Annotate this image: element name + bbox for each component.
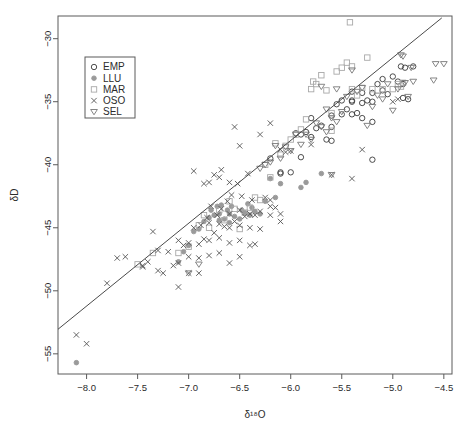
- marker-circle-open: [349, 112, 354, 117]
- x-tick-label: −5.5: [332, 382, 351, 393]
- y-tick-label: −50: [42, 283, 53, 299]
- series-sel: [185, 53, 447, 276]
- marker-triangle-down-open: [369, 104, 376, 109]
- marker-triangle-down-open: [298, 142, 305, 147]
- marker-triangle-down-open: [379, 97, 386, 102]
- legend-label-emp: EMP: [103, 61, 125, 72]
- marker-circle-filled: [181, 249, 186, 254]
- marker-circle-open: [370, 157, 375, 162]
- marker-circle-open: [288, 170, 293, 175]
- series-mar: [135, 20, 406, 267]
- marker-square-open: [339, 65, 344, 70]
- marker-circle-open: [354, 110, 359, 115]
- marker-circle-open: [308, 115, 313, 120]
- marker-circle-open: [411, 64, 416, 69]
- marker-square-open: [344, 60, 349, 65]
- marker-square-open: [257, 197, 262, 202]
- marker-circle-filled: [92, 76, 97, 81]
- legend-label-llu: LLU: [103, 73, 121, 84]
- marker-circle-open: [385, 91, 390, 96]
- y-tick-label: −40: [42, 157, 53, 173]
- x-tick-label: −7.0: [179, 382, 198, 393]
- x-tick-label: −6.0: [281, 382, 300, 393]
- marker-circle-open: [298, 154, 303, 159]
- marker-circle-filled: [74, 360, 79, 365]
- marker-square-open: [308, 86, 313, 91]
- marker-circle-filled: [237, 217, 242, 222]
- x-axis-title: δ¹⁸O: [245, 409, 266, 420]
- series-oso: [74, 96, 401, 346]
- marker-circle-filled: [227, 220, 232, 225]
- marker-square-open: [298, 127, 303, 132]
- marker-square-open: [334, 69, 339, 74]
- y-tick-label: −35: [42, 94, 53, 110]
- marker-square-open: [324, 88, 329, 93]
- marker-triangle-down-open: [410, 79, 417, 84]
- x-tick-label: −8.0: [77, 382, 96, 393]
- marker-circle-open: [390, 74, 395, 79]
- y-tick-label: −55: [42, 346, 53, 362]
- legend-label-sel: SEL: [103, 106, 122, 117]
- y-tick-label: −30: [42, 31, 53, 47]
- x-tick-label: −5.0: [383, 382, 402, 393]
- x-tick-label: −7.5: [128, 382, 147, 393]
- legend-label-oso: OSO: [103, 95, 125, 106]
- marker-square-open: [206, 225, 211, 230]
- marker-square-open: [347, 20, 352, 25]
- marker-triangle-down-open: [430, 78, 437, 83]
- marker-triangle-down-open: [364, 123, 371, 128]
- scatter-plot: −8.0−7.5−7.0−6.5−6.0−5.5−5.0−4.5−30−35−4…: [0, 0, 465, 430]
- marker-circle-filled: [304, 180, 309, 185]
- marker-circle-open: [324, 137, 329, 142]
- marker-circle-filled: [319, 171, 324, 176]
- marker-square-open: [303, 117, 308, 122]
- marker-circle-open: [365, 98, 370, 103]
- chart-container: −8.0−7.5−7.0−6.5−6.0−5.5−5.0−4.5−30−35−4…: [0, 0, 465, 430]
- marker-square-open: [319, 73, 324, 78]
- marker-triangle-down-open: [432, 62, 439, 67]
- x-tick-label: −6.5: [230, 382, 249, 393]
- marker-circle-filled: [273, 195, 278, 200]
- marker-circle-open: [380, 76, 385, 81]
- marker-circle-filled: [258, 212, 263, 217]
- marker-circle-open: [329, 138, 334, 143]
- marker-circle-open: [400, 95, 405, 100]
- marker-triangle-down-open: [402, 81, 409, 86]
- marker-circle-open: [359, 115, 364, 120]
- marker-triangle-down-open: [440, 62, 447, 67]
- marker-circle-filled: [232, 214, 237, 219]
- marker-triangle-down-open: [333, 87, 340, 92]
- marker-circle-open: [375, 81, 380, 86]
- y-axis-title: δD: [9, 189, 20, 202]
- marker-circle-open: [370, 99, 375, 104]
- marker-square-open: [176, 250, 181, 255]
- marker-triangle-down-open: [195, 262, 202, 267]
- marker-triangle-down-open: [389, 108, 396, 113]
- marker-circle-open: [380, 88, 385, 93]
- marker-triangle-down-open: [333, 120, 340, 125]
- y-tick-label: −45: [42, 220, 53, 236]
- marker-circle-open: [329, 124, 334, 129]
- marker-circle-filled: [202, 219, 207, 224]
- marker-circle-filled: [278, 181, 283, 186]
- marker-circle-filled: [299, 185, 304, 190]
- legend-label-mar: MAR: [103, 84, 125, 95]
- x-tick-label: −4.5: [434, 382, 453, 393]
- series-emp: [268, 64, 416, 177]
- marker-square-open: [365, 55, 370, 60]
- marker-circle-open: [359, 100, 364, 105]
